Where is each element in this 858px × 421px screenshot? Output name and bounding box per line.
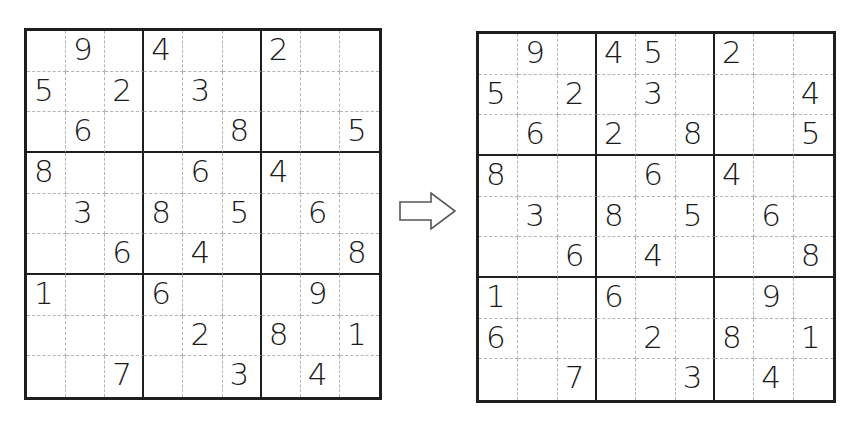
sudoku-cell-r2c8[interactable] [754,75,793,116]
sudoku-cell-r8c2[interactable] [518,319,557,360]
sudoku-cell-r7c6[interactable] [676,278,715,319]
sudoku-cell-r3c2[interactable]: 6 [66,112,105,153]
sudoku-cell-r1c9[interactable] [794,34,833,75]
sudoku-cell-r7c9[interactable] [340,275,379,316]
sudoku-cell-r4c8[interactable] [301,153,340,194]
sudoku-cell-r4c6[interactable] [676,156,715,197]
sudoku-cell-r7c2[interactable] [66,275,105,316]
sudoku-cell-r9c3[interactable]: 7 [105,356,144,397]
sudoku-cell-r3c1[interactable] [479,115,518,156]
sudoku-cell-r8c8[interactable] [301,316,340,357]
sudoku-cell-r7c7[interactable] [715,278,754,319]
sudoku-cell-r9c1[interactable] [479,359,518,400]
sudoku-cell-r8c7[interactable]: 8 [715,319,754,360]
sudoku-cell-r6c3[interactable]: 6 [105,234,144,275]
sudoku-cell-r2c3[interactable]: 2 [558,75,597,116]
sudoku-cell-r5c1[interactable] [27,194,66,235]
sudoku-cell-r4c3[interactable] [558,156,597,197]
sudoku-cell-r5c9[interactable] [340,194,379,235]
sudoku-cell-r9c8[interactable]: 4 [301,356,340,397]
sudoku-cell-r5c7[interactable] [715,197,754,238]
sudoku-cell-r5c5[interactable] [183,194,222,235]
sudoku-cell-r4c4[interactable] [144,153,183,194]
sudoku-cell-r3c2[interactable]: 6 [518,115,557,156]
sudoku-cell-r1c5[interactable] [183,31,222,72]
sudoku-cell-r7c3[interactable] [105,275,144,316]
sudoku-cell-r7c8[interactable]: 9 [754,278,793,319]
sudoku-cell-r1c1[interactable] [27,31,66,72]
sudoku-cell-r9c9[interactable] [794,359,833,400]
sudoku-cell-r1c7[interactable]: 2 [715,34,754,75]
sudoku-cell-r6c6[interactable] [223,234,262,275]
sudoku-cell-r3c6[interactable]: 8 [223,112,262,153]
sudoku-cell-r7c9[interactable] [794,278,833,319]
sudoku-cell-r6c8[interactable] [754,237,793,278]
sudoku-cell-r2c9[interactable]: 4 [794,75,833,116]
sudoku-cell-r1c4[interactable]: 4 [597,34,636,75]
sudoku-cell-r3c6[interactable]: 8 [676,115,715,156]
sudoku-cell-r7c8[interactable]: 9 [301,275,340,316]
sudoku-cell-r4c5[interactable]: 6 [183,153,222,194]
sudoku-cell-r5c3[interactable] [558,197,597,238]
sudoku-cell-r1c6[interactable] [676,34,715,75]
sudoku-cell-r5c6[interactable]: 5 [676,197,715,238]
sudoku-cell-r2c8[interactable] [301,72,340,113]
sudoku-cell-r7c1[interactable]: 1 [479,278,518,319]
sudoku-cell-r8c5[interactable]: 2 [183,316,222,357]
sudoku-cell-r2c4[interactable] [597,75,636,116]
sudoku-cell-r9c8[interactable]: 4 [754,359,793,400]
sudoku-cell-r3c5[interactable] [183,112,222,153]
sudoku-cell-r2c1[interactable]: 5 [479,75,518,116]
sudoku-cell-r3c8[interactable] [301,112,340,153]
sudoku-cell-r2c5[interactable]: 3 [636,75,675,116]
sudoku-cell-r1c8[interactable] [301,31,340,72]
sudoku-cell-r8c7[interactable]: 8 [262,316,301,357]
sudoku-cell-r2c2[interactable] [66,72,105,113]
sudoku-cell-r6c7[interactable] [715,237,754,278]
sudoku-cell-r3c4[interactable]: 2 [597,115,636,156]
sudoku-cell-r9c7[interactable] [262,356,301,397]
sudoku-cell-r4c7[interactable]: 4 [715,156,754,197]
sudoku-cell-r3c7[interactable] [715,115,754,156]
sudoku-cell-r6c7[interactable] [262,234,301,275]
sudoku-cell-r9c3[interactable]: 7 [558,359,597,400]
sudoku-cell-r7c4[interactable]: 6 [144,275,183,316]
sudoku-cell-r6c5[interactable]: 4 [636,237,675,278]
sudoku-cell-r8c4[interactable] [597,319,636,360]
sudoku-cell-r8c1[interactable]: 6 [479,319,518,360]
sudoku-cell-r1c2[interactable]: 9 [518,34,557,75]
sudoku-cell-r4c8[interactable] [754,156,793,197]
sudoku-cell-r3c3[interactable] [558,115,597,156]
sudoku-cell-r4c1[interactable]: 8 [27,153,66,194]
sudoku-cell-r6c5[interactable]: 4 [183,234,222,275]
sudoku-cell-r9c1[interactable] [27,356,66,397]
sudoku-cell-r8c9[interactable]: 1 [340,316,379,357]
sudoku-cell-r9c6[interactable]: 3 [676,359,715,400]
sudoku-cell-r2c4[interactable] [144,72,183,113]
sudoku-cell-r5c5[interactable] [636,197,675,238]
sudoku-cell-r2c5[interactable]: 3 [183,72,222,113]
sudoku-cell-r4c5[interactable]: 6 [636,156,675,197]
sudoku-cell-r5c7[interactable] [262,194,301,235]
sudoku-cell-r2c2[interactable] [518,75,557,116]
sudoku-cell-r6c9[interactable]: 8 [794,237,833,278]
sudoku-cell-r7c3[interactable] [558,278,597,319]
sudoku-cell-r7c5[interactable] [636,278,675,319]
sudoku-cell-r5c2[interactable]: 3 [66,194,105,235]
sudoku-cell-r5c2[interactable]: 3 [518,197,557,238]
sudoku-cell-r1c2[interactable]: 9 [66,31,105,72]
sudoku-cell-r6c6[interactable] [676,237,715,278]
sudoku-cell-r2c7[interactable] [262,72,301,113]
sudoku-cell-r7c5[interactable] [183,275,222,316]
sudoku-cell-r6c1[interactable] [479,237,518,278]
sudoku-cell-r5c3[interactable] [105,194,144,235]
sudoku-cell-r2c3[interactable]: 2 [105,72,144,113]
sudoku-cell-r1c5[interactable]: 5 [636,34,675,75]
sudoku-cell-r2c6[interactable] [223,72,262,113]
sudoku-cell-r9c5[interactable] [183,356,222,397]
sudoku-cell-r8c6[interactable] [676,319,715,360]
sudoku-cell-r1c7[interactable]: 2 [262,31,301,72]
sudoku-cell-r3c4[interactable] [144,112,183,153]
sudoku-cell-r8c3[interactable] [105,316,144,357]
sudoku-cell-r9c7[interactable] [715,359,754,400]
